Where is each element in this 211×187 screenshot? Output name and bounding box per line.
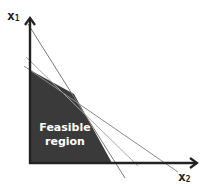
feasible-region-label-line-2: region [34, 135, 96, 149]
horizontal-axis-label-subscript: 2 [186, 175, 191, 184]
feasible-region-label-line-1: Feasible [34, 121, 96, 135]
diagram-canvas [0, 0, 211, 187]
horizontal-axis-label-name: x [178, 169, 186, 184]
vertical-axis-label-name: x [7, 8, 15, 23]
horizontal-axis-label: x2 [178, 170, 191, 184]
feasible-region [30, 70, 112, 163]
vertical-axis-label-subscript: 1 [15, 14, 20, 23]
feasible-region-diagram: x1 x2 Feasible region [0, 0, 211, 187]
feasible-region-label: Feasible region [34, 121, 96, 149]
vertical-axis-label: x1 [7, 9, 20, 23]
